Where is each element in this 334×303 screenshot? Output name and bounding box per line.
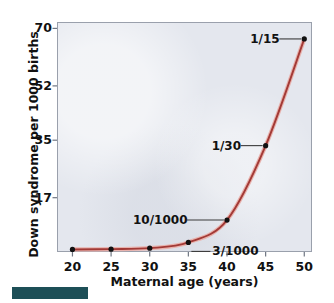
data-point-20: [70, 247, 75, 252]
data-point-30: [147, 246, 152, 251]
data-point-25: [108, 247, 113, 252]
incidence-curve: [72, 39, 304, 250]
curve-halo: [72, 39, 304, 250]
data-point-50: [302, 36, 307, 41]
data-point-35: [186, 240, 191, 245]
annotation-leader-lines: [187, 39, 301, 251]
accent-bar: [12, 287, 88, 299]
data-point-45: [263, 143, 268, 148]
data-point-40: [224, 217, 229, 222]
chart-vector-overlay: [0, 0, 334, 303]
down-syndrome-incidence-chart: 17355270 20253035404550 Maternal age (ye…: [0, 0, 334, 303]
